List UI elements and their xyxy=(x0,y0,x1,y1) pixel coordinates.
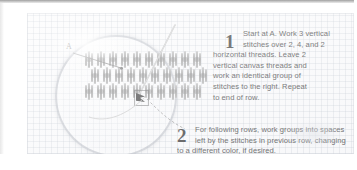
leader-line-a xyxy=(73,53,125,71)
stitch-group xyxy=(193,83,205,100)
grid-paper-panel: A 1 Start at A. Work 3 vertical stitches… xyxy=(27,13,354,154)
scan-top-edge xyxy=(0,0,357,3)
step-1-line-6: stitches to the right. Repeat xyxy=(213,82,354,93)
stitch-knot xyxy=(182,89,188,94)
instruction-step-2: 2 For following rows, work groups into s… xyxy=(177,125,354,154)
stitch-knot xyxy=(194,89,200,94)
thread-tail xyxy=(67,73,147,133)
page-bottom-margin xyxy=(0,154,357,170)
step-2-number: 2 xyxy=(177,126,187,145)
step-2-line-1: For following rows, work groups into spa… xyxy=(177,125,354,136)
stitch-group xyxy=(181,51,193,68)
stitch-knot xyxy=(200,73,206,78)
point-label-a: A xyxy=(66,42,72,51)
stitch-group xyxy=(187,67,199,84)
scan-left-edge xyxy=(0,3,4,170)
stitch-group xyxy=(193,51,205,68)
scanned-diagram-page: A 1 Start at A. Work 3 vertical stitches… xyxy=(0,0,357,170)
stitch-knot xyxy=(194,57,200,62)
stitch-group xyxy=(199,67,211,84)
stitch-knot xyxy=(182,57,188,62)
step-1-line-7: to end of row. xyxy=(213,93,354,104)
instructions-column: 1 Start at A. Work 3 vertical stitches o… xyxy=(213,29,354,154)
step-2-text: For following rows, work groups into spa… xyxy=(177,125,354,154)
step-1-number: 1 xyxy=(225,32,235,51)
step-1-line-5: work an identical group of xyxy=(213,71,354,82)
step-2-line-3: to a different color, if desired. xyxy=(177,146,354,154)
step-1-line-4: vertical canvas threads and xyxy=(213,61,354,72)
step-2-line-2: left by the stitches in previous row, ch… xyxy=(177,136,354,147)
stitch-knot xyxy=(188,73,194,78)
instruction-step-1: 1 Start at A. Work 3 vertical stitches o… xyxy=(213,29,354,103)
